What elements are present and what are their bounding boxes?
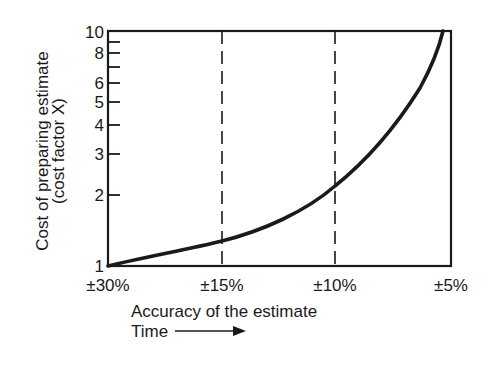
x-tick-label-5pct: ±5% xyxy=(434,276,468,295)
y-axis-tick-labels: 10 8 6 5 4 3 2 1 xyxy=(85,23,104,276)
y-axis-ticks xyxy=(108,42,120,195)
x-tick-label-30pct: ±30% xyxy=(86,276,129,295)
x-tick-label-10pct: ±10% xyxy=(313,276,356,295)
time-arrow-icon xyxy=(175,326,246,336)
time-label: Time xyxy=(131,322,168,341)
y-tick-label-2: 2 xyxy=(95,186,104,205)
cost-vs-accuracy-chart: 10 8 6 5 4 3 2 1 ±30% ±15% ±10% ±5% Accu… xyxy=(0,0,491,369)
cost-curve xyxy=(108,31,443,266)
y-tick-label-10: 10 xyxy=(85,23,104,42)
y-tick-label-8: 8 xyxy=(95,44,104,63)
y-tick-label-5: 5 xyxy=(95,93,104,112)
plot-frame xyxy=(108,31,451,266)
y-tick-label-6: 6 xyxy=(95,74,104,93)
x-axis-tick-labels: ±30% ±15% ±10% ±5% xyxy=(86,276,468,295)
y-tick-label-1: 1 xyxy=(95,257,104,276)
y-axis-subtitle: (cost factor X) xyxy=(49,98,68,204)
y-tick-label-4: 4 xyxy=(95,116,104,135)
y-tick-label-3: 3 xyxy=(95,145,104,164)
x-axis-title: Accuracy of the estimate xyxy=(131,302,317,321)
x-tick-label-15pct: ±15% xyxy=(200,276,243,295)
